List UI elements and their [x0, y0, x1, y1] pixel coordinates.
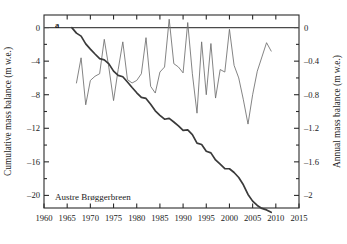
x-tick-label: 1985 — [151, 213, 168, 223]
x-tick-label: 1970 — [82, 213, 99, 223]
right-tick-label: –1.2 — [303, 123, 319, 133]
x-tick-label: 1960 — [35, 213, 52, 223]
left-tick-label: –16 — [26, 157, 41, 167]
x-tick-label: 1995 — [198, 213, 215, 223]
annual-mass-balance-line — [76, 19, 271, 124]
right-tick-label: 0 — [304, 23, 308, 33]
figure-panel-a: 0–4–8–12–16–20 0–0.4–0.8–1.2–1.6–2 19601… — [0, 0, 347, 244]
left-tick-label: –12 — [26, 123, 40, 133]
x-tick-label: 1980 — [128, 213, 145, 223]
x-tick-label: 1990 — [174, 213, 191, 223]
x-tick-label: 2000 — [221, 213, 238, 223]
mass-balance-chart: 0–4–8–12–16–20 0–0.4–0.8–1.2–1.6–2 19601… — [0, 0, 347, 244]
left-axis-title: Cumulative mass balance (m w.e.) — [3, 47, 14, 176]
x-tick-label: 2005 — [244, 213, 261, 223]
right-tick-label: –0.8 — [303, 90, 319, 100]
right-tick-label: –1.6 — [303, 157, 320, 167]
left-axis: 0–4–8–12–16–20 — [26, 23, 49, 201]
right-axis: 0–0.4–0.8–1.2–1.6–2 — [294, 23, 320, 201]
right-axis-title: Annual mass balance (m w.e.) — [332, 55, 343, 168]
x-tick-label: 1975 — [105, 213, 122, 223]
x-tick-label: 2015 — [290, 213, 307, 223]
left-tick-label: 0 — [36, 23, 40, 33]
x-tick-label: 2010 — [267, 213, 284, 223]
panel-label: a — [55, 20, 60, 30]
left-tick-label: –8 — [30, 90, 40, 100]
left-tick-label: –20 — [26, 190, 40, 200]
x-tick-label: 1965 — [59, 213, 76, 223]
right-tick-label: –0.4 — [303, 56, 320, 66]
left-tick-label: –4 — [30, 56, 40, 66]
series-name-label: Austre Brøggerbreen — [55, 192, 131, 202]
right-tick-label: –2 — [303, 190, 313, 200]
